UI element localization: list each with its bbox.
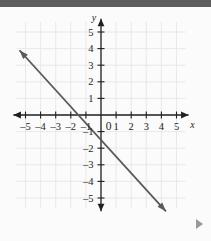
y-tick-label: 5: [88, 27, 93, 38]
x-tick-label: –3: [49, 121, 61, 132]
y-tick-label: –1: [82, 126, 94, 137]
x-tick-label: 2: [129, 121, 134, 132]
x-tick-label: –5: [19, 121, 31, 132]
y-tick-label: –5: [82, 193, 94, 204]
x-tick-label: –2: [65, 121, 77, 132]
x-tick-label: 4: [159, 121, 165, 132]
coordinate-plane-figure: –5–4–3–2–11234554321–1–2–3–4–50xy: [0, 7, 211, 241]
x-tick-label: –4: [34, 121, 46, 132]
y-tick-label: 3: [88, 60, 93, 71]
y-tick-label: 4: [88, 43, 94, 54]
y-tick-label: –2: [82, 143, 94, 154]
y-tick-label: –4: [82, 176, 94, 187]
axes: [13, 19, 188, 212]
y-axis-label: y: [91, 12, 97, 23]
axis-tick-labels: –5–4–3–2–11234554321–1–2–3–4–50xy: [19, 12, 195, 204]
origin-label: 0: [106, 120, 112, 132]
x-tick-label: 5: [174, 121, 179, 132]
y-tick-label: 1: [88, 93, 93, 104]
x-tick-label: 3: [144, 121, 149, 132]
y-tick-label: 2: [88, 76, 93, 87]
play-triangle-icon[interactable]: [196, 219, 203, 229]
top-dark-bar: [0, 0, 211, 7]
figure-page: –5–4–3–2–11234554321–1–2–3–4–50xy: [0, 0, 211, 241]
x-tick-label: 1: [113, 121, 118, 132]
coordinate-plane-svg: –5–4–3–2–11234554321–1–2–3–4–50xy: [0, 7, 211, 241]
x-axis-label: x: [189, 119, 195, 130]
y-tick-label: –3: [82, 159, 94, 170]
